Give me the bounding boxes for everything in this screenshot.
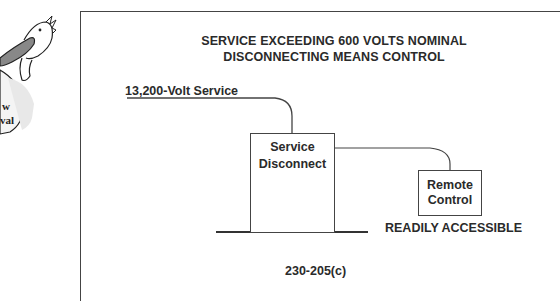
service-voltage-label: 13,200-Volt Service bbox=[125, 84, 238, 98]
service-disconnect-label-line1: Service bbox=[251, 140, 334, 155]
service-disconnect-label-line2: Disconnect bbox=[251, 157, 334, 172]
readily-accessible-note: READILY ACCESSIBLE bbox=[385, 221, 522, 235]
control-wire-line bbox=[335, 148, 450, 170]
service-disconnect-box: Service Disconnect bbox=[250, 133, 335, 233]
diagram-title-line1: SERVICE EXCEEDING 600 VOLTS NOMINAL bbox=[120, 34, 548, 48]
remote-control-box: Remote Control bbox=[418, 170, 482, 216]
service-feed-line bbox=[127, 98, 292, 133]
remote-control-label-line2: Control bbox=[419, 193, 481, 208]
diagram-title-line2: DISCONNECTING MEANS CONTROL bbox=[120, 50, 548, 64]
code-reference: 230-205(c) bbox=[285, 264, 346, 278]
remote-control-label-line1: Remote bbox=[419, 178, 481, 193]
